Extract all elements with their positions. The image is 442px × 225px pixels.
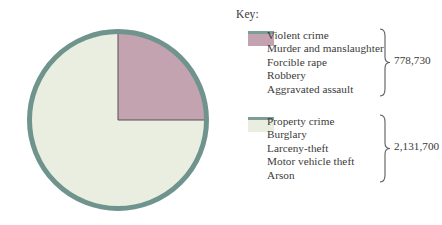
legend-item-label: Violent crime [267,29,379,42]
legend-item-label: Aggravated assault [267,83,379,96]
crime-pie-chart-figure: Key: Violent crime Murder and manslaught… [0,0,442,225]
pie-chart [25,27,211,213]
legend-group-value: 2,131,700 [394,140,439,153]
legend-group-value: 778,730 [394,54,431,67]
legend-item-label: Larceny-theft [267,142,379,155]
legend: Key: Violent crime Murder and manslaught… [234,8,440,208]
legend-labels-violent-crime: Violent crime Murder and manslaughter Fo… [267,29,379,96]
legend-item-label: Burglary [267,128,379,141]
legend-item-label: Forcible rape [267,56,379,69]
legend-item-label: Motor vehicle theft [267,155,379,168]
pie-chart-svg [25,27,211,213]
legend-item-label: Murder and manslaughter [267,42,379,55]
legend-item-label: Arson [267,169,379,182]
legend-labels-property-crime: Property crime Burglary Larceny-theft Mo… [267,115,379,182]
legend-item-label: Robbery [267,69,379,82]
brace-icon [378,114,392,183]
legend-item-label: Property crime [267,115,379,128]
legend-title: Key: [236,8,259,21]
brace-icon [378,28,392,97]
